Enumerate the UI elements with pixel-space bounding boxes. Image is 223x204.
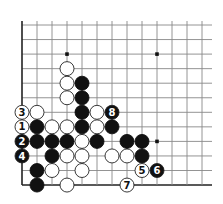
black-stone: [135, 134, 149, 148]
white-stone: [60, 178, 74, 192]
numbered-move-8: 8: [105, 105, 119, 119]
move-number: 2: [19, 136, 26, 147]
go-board: 12345678: [0, 0, 223, 204]
star-point-icon: [155, 140, 159, 144]
numbered-move-3: 3: [15, 105, 29, 119]
black-stone: [75, 91, 89, 105]
numbered-move-4: 4: [15, 149, 29, 163]
white-stone: [90, 120, 104, 134]
white-stone: [60, 76, 74, 90]
numbered-move-2: 2: [15, 134, 29, 148]
white-stone: [60, 149, 74, 163]
numbered-move-6: 6: [150, 164, 164, 178]
star-point-icon: [65, 52, 69, 56]
white-stone: [75, 149, 89, 163]
black-stone: [45, 134, 59, 148]
white-stone: [120, 149, 134, 163]
white-stone: [60, 120, 74, 134]
white-stone: [45, 164, 59, 178]
white-stone: [30, 105, 44, 119]
star-point-icon: [155, 52, 159, 56]
black-stone: [30, 178, 44, 192]
move-number: 7: [124, 180, 131, 191]
black-stone: [120, 134, 134, 148]
numbered-move-5: 5: [135, 164, 149, 178]
move-number: 5: [139, 165, 146, 176]
black-stone: [30, 134, 44, 148]
numbered-move-7: 7: [120, 178, 134, 192]
black-stone: [75, 105, 89, 119]
black-stone: [45, 149, 59, 163]
move-number: 1: [19, 121, 26, 132]
move-number: 3: [19, 107, 26, 118]
black-stone: [75, 120, 89, 134]
white-stone: [45, 120, 59, 134]
white-stone: [105, 149, 119, 163]
black-stone: [105, 120, 119, 134]
black-stone: [75, 76, 89, 90]
black-stone: [90, 134, 104, 148]
black-stone: [60, 134, 74, 148]
white-stone: [90, 105, 104, 119]
move-number: 6: [154, 165, 161, 176]
move-number: 8: [109, 107, 116, 118]
black-stone: [30, 164, 44, 178]
black-stone: [30, 120, 44, 134]
move-number: 4: [19, 151, 26, 162]
numbered-move-1: 1: [15, 120, 29, 134]
white-stone: [75, 134, 89, 148]
white-stone: [60, 91, 74, 105]
white-stone: [60, 62, 74, 76]
black-stone: [135, 149, 149, 163]
white-stone: [75, 164, 89, 178]
